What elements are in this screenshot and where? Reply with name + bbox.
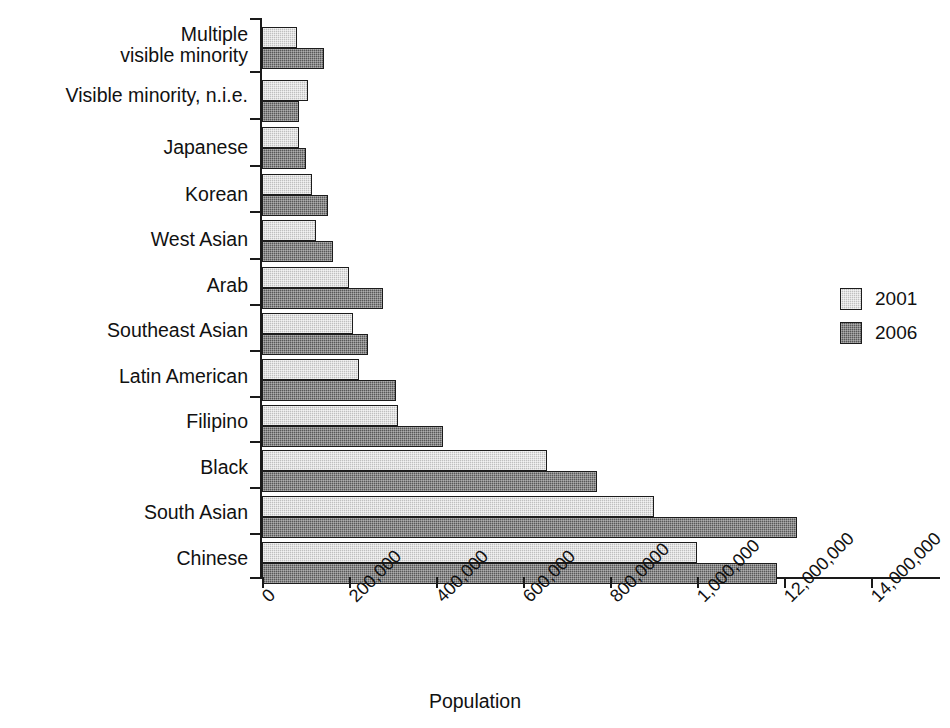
- y-tick: [250, 18, 261, 20]
- x-tick-label: 12,000,000: [780, 528, 859, 607]
- legend-swatch-2006-icon: [840, 322, 862, 344]
- y-axis-label-visible-minority-nie: Visible minority, n.i.e.: [0, 85, 248, 106]
- y-tick: [250, 258, 261, 260]
- bar-2001-southeast-asian: [262, 313, 353, 334]
- bar-2001-black: [262, 450, 547, 471]
- legend-label-2001: 2001: [875, 288, 917, 310]
- bar-2006-korean: [262, 195, 328, 216]
- chart-legend: 2001 2006: [840, 282, 917, 350]
- y-axis-label-korean: Korean: [0, 184, 248, 205]
- bar-chart: Multiple visible minority Visible minori…: [0, 0, 950, 728]
- y-axis-label-black: Black: [0, 457, 248, 478]
- y-tick: [250, 487, 261, 489]
- bar-2006-southeast-asian: [262, 334, 368, 355]
- bar-2001-south-asian: [262, 496, 654, 517]
- y-tick: [250, 533, 261, 535]
- bar-2001-korean: [262, 174, 312, 195]
- y-axis-label-southeast-asian: Southeast Asian: [0, 320, 248, 341]
- bar-2006-japanese: [262, 148, 306, 169]
- bar-2001-arab: [262, 267, 349, 288]
- bar-2006-filipino: [262, 426, 443, 447]
- y-axis-label-arab: Arab: [0, 275, 248, 296]
- y-tick: [250, 211, 261, 213]
- bar-2001-visible-minority-n-i-e: [262, 80, 308, 101]
- x-tick-label: 0: [258, 585, 280, 607]
- bar-2001-filipino: [262, 405, 398, 426]
- bar-2006-black: [262, 471, 597, 492]
- y-axis-label-multiple-visible-minority: Multiple visible minority: [0, 24, 248, 66]
- bar-2006-arab: [262, 288, 383, 309]
- y-axis-label-filipino: Filipino: [0, 411, 248, 432]
- legend-swatch-2001-icon: [840, 288, 862, 310]
- bar-2001-japanese: [262, 127, 299, 148]
- y-tick: [250, 350, 261, 352]
- y-axis-label-south-asian: South Asian: [0, 502, 248, 523]
- bar-2001-latin-american: [262, 359, 359, 380]
- legend-label-2006: 2006: [875, 322, 917, 344]
- y-axis-label-west-asian: West Asian: [0, 229, 248, 250]
- y-tick: [250, 71, 261, 73]
- y-axis-label-japanese: Japanese: [0, 137, 248, 158]
- bar-2006-visible-minority-n-i-e: [262, 101, 299, 122]
- legend-item-2006: 2006: [840, 316, 917, 350]
- bar-2006-south-asian: [262, 517, 797, 538]
- y-axis-label-latin-american: Latin American: [0, 366, 248, 387]
- bar-2006-latin-american: [262, 380, 396, 401]
- y-tick: [250, 396, 261, 398]
- bar-2001-multiple-visible-minority: [262, 27, 297, 48]
- x-tick-label: 14,000,000: [867, 528, 946, 607]
- bar-2001-west-asian: [262, 220, 316, 241]
- y-axis-label-chinese: Chinese: [0, 548, 248, 569]
- x-axis-title: Population: [0, 690, 950, 713]
- bar-2006-multiple-visible-minority: [262, 48, 324, 69]
- y-tick: [250, 165, 261, 167]
- y-tick: [250, 577, 261, 579]
- legend-item-2001: 2001: [840, 282, 917, 316]
- y-tick: [250, 118, 261, 120]
- y-tick: [250, 304, 261, 306]
- y-tick: [250, 441, 261, 443]
- bar-2006-chinese: [262, 563, 777, 584]
- bar-2006-west-asian: [262, 241, 333, 262]
